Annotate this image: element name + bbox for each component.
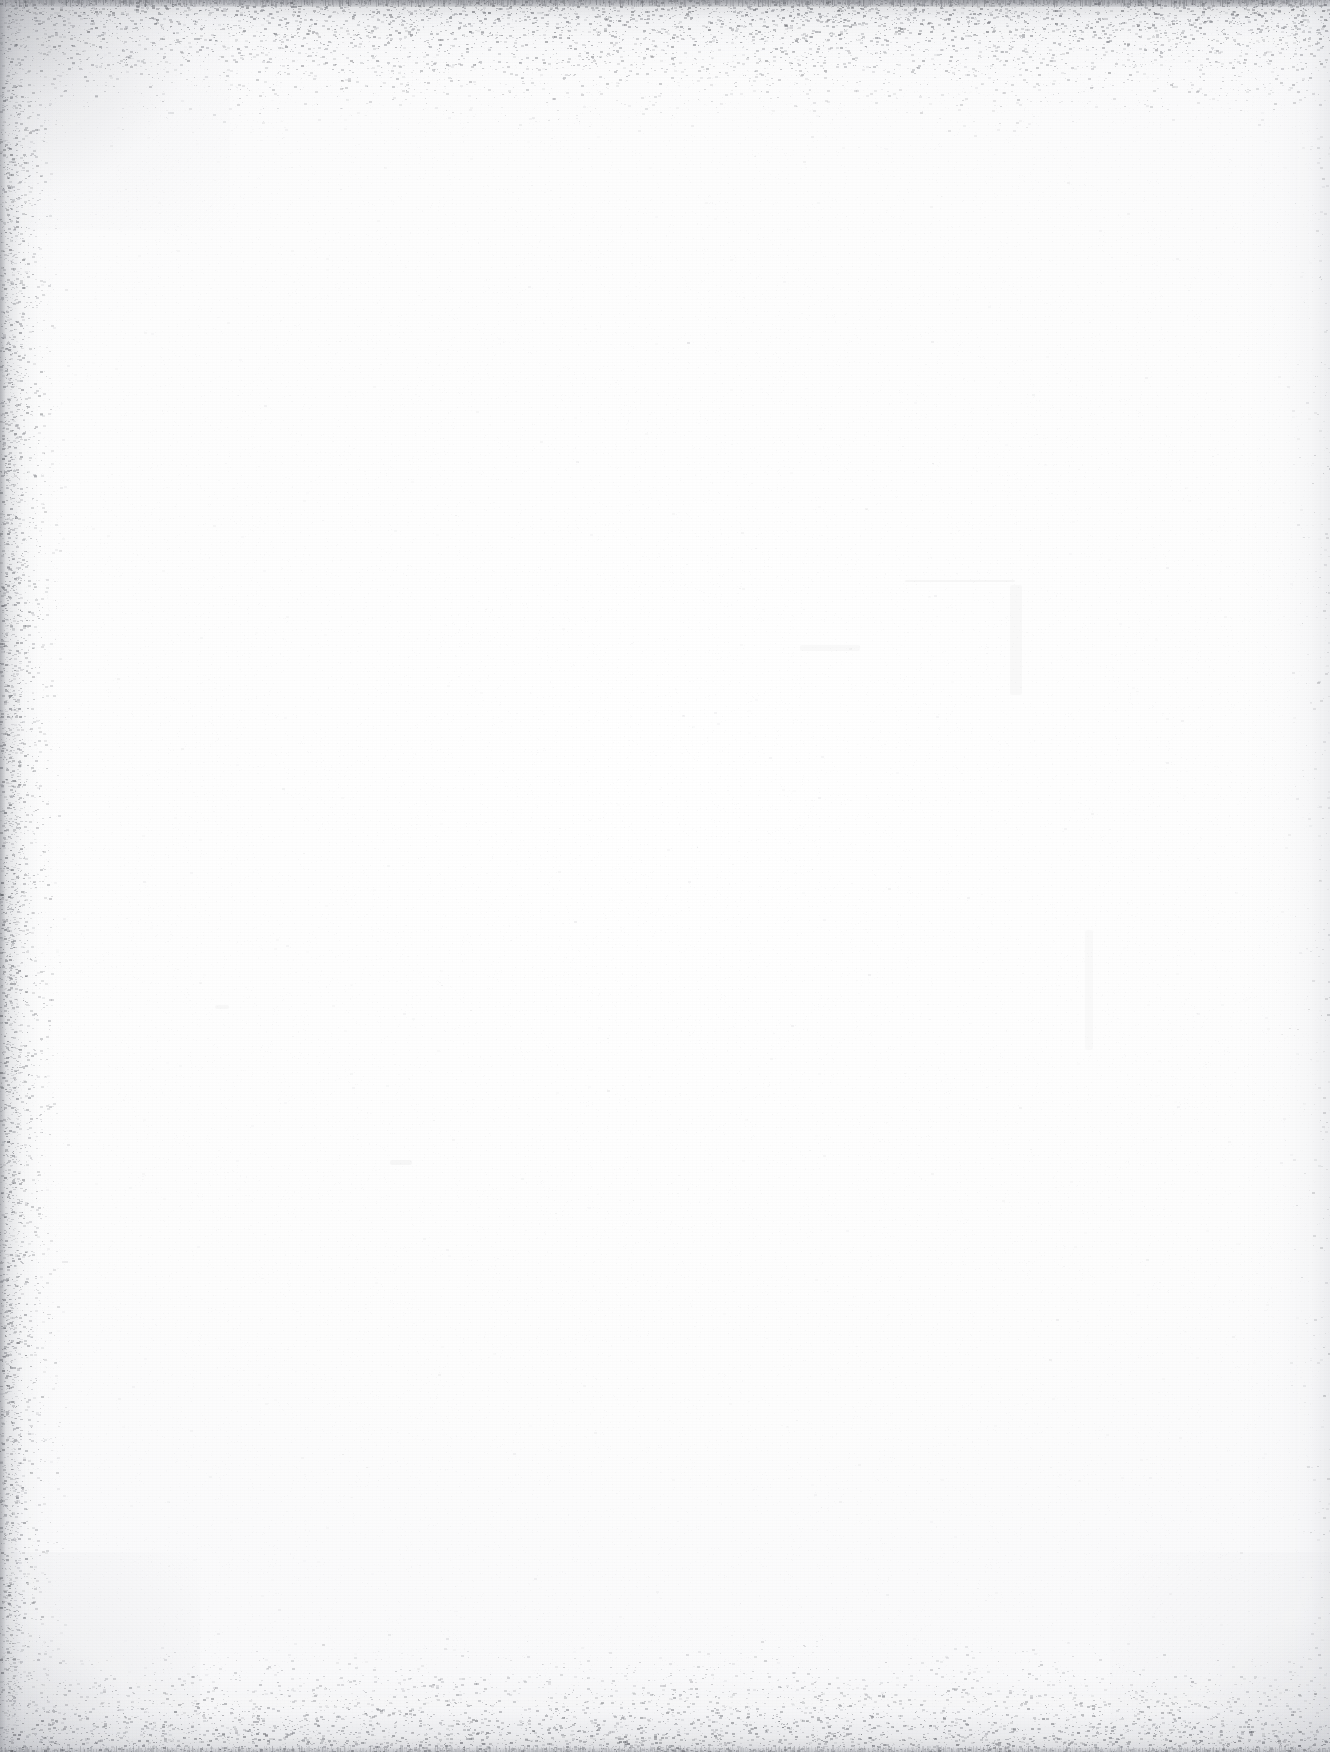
left-edge-shadow (0, 0, 70, 1752)
left-edge-line (0, 0, 5, 1752)
bottom-edge-shadow (0, 1622, 1330, 1752)
paper-field (0, 0, 1330, 1752)
top-left-corner-shadow (0, 0, 230, 230)
paper-grain-layer (0, 0, 1330, 1752)
faint-bleed-line-1 (905, 580, 1015, 582)
faint-bleed-smudge-2 (1085, 930, 1093, 1050)
scanner-speckle-layer (0, 0, 1330, 1752)
bottom-edge-line (0, 1747, 1330, 1752)
grain-overlay (0, 0, 1330, 1752)
top-edge-line (0, 0, 1330, 7)
faint-speck-cluster-2 (215, 1005, 229, 1009)
scanned-page (0, 0, 1330, 1752)
faint-speck-cluster-1 (390, 1160, 412, 1165)
faint-bleed-line-2 (1010, 585, 1022, 695)
page-text-content (0, 0, 1, 1)
right-edge-shadow (1240, 0, 1330, 1752)
bottom-right-corner-shadow (1110, 1552, 1330, 1752)
faint-bleed-smudge-1 (800, 645, 860, 651)
top-edge-shadow (0, 0, 1330, 120)
bottom-left-corner-shadow (0, 1552, 200, 1752)
